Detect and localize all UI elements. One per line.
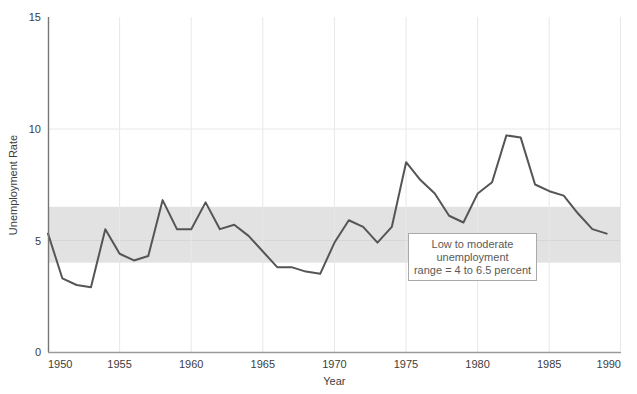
band-annotation: Low to moderate unemployment range = 4 t… — [409, 234, 537, 281]
y-tick-label-0: 0 — [35, 346, 41, 358]
unemployment-rate-chart: 15 10 5 0 1950 1955 1960 1965 1970 1975 … — [0, 0, 637, 394]
y-tick-label-10: 10 — [29, 123, 41, 135]
x-tick-label-1950: 1950 — [48, 358, 72, 370]
x-tick-label-1990: 1990 — [597, 358, 621, 370]
annotation-line-2: unemployment — [436, 251, 508, 263]
annotation-line-1: Low to moderate — [432, 238, 514, 250]
y-axis-title: Unemployment Rate — [7, 135, 19, 235]
annotation-line-3: range = 4 to 6.5 percent — [414, 264, 531, 276]
x-tick-label-1955: 1955 — [107, 358, 131, 370]
x-axis-title: Year — [323, 375, 346, 387]
chart-canvas: 15 10 5 0 1950 1955 1960 1965 1970 1975 … — [0, 0, 637, 394]
x-tick-label-1965: 1965 — [251, 358, 275, 370]
y-tick-label-5: 5 — [35, 235, 41, 247]
x-tick-label-1960: 1960 — [179, 358, 203, 370]
x-tick-label-1985: 1985 — [537, 358, 561, 370]
x-tick-label-1975: 1975 — [394, 358, 418, 370]
x-tick-label-1980: 1980 — [465, 358, 489, 370]
y-tick-label-15: 15 — [29, 11, 41, 23]
x-tick-label-1970: 1970 — [322, 358, 346, 370]
